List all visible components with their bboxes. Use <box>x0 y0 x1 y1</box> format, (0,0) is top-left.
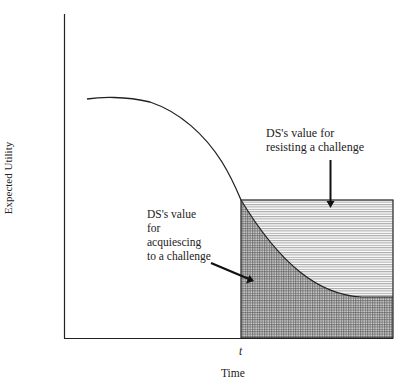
x-tick-t: t <box>239 345 242 359</box>
acquiescing-annotation-line4: to a challenge <box>147 250 211 264</box>
acquiescing-annotation-line2: for <box>147 222 160 236</box>
resisting-annotation-line1: DS's value for <box>266 127 334 141</box>
utility-curve-before-t <box>87 97 241 200</box>
acquiescing-annotation-line1: DS's value <box>147 208 196 222</box>
diagram-canvas <box>0 0 403 391</box>
y-axis-label: Expected Utility <box>2 142 14 214</box>
x-axis-label: Time <box>221 367 245 381</box>
acquiescing-annotation-line3: acquiescing <box>147 236 201 250</box>
resisting-annotation-line2: resisting a challenge <box>266 141 364 155</box>
